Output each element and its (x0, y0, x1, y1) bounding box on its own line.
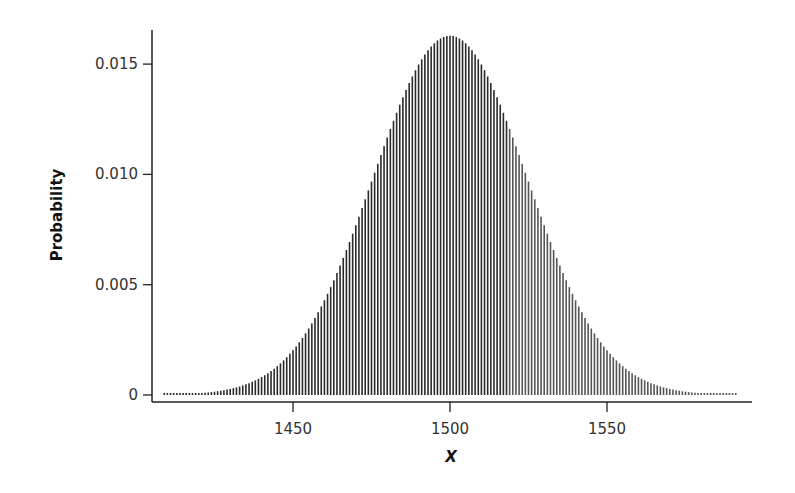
x-tick-label: 1450 (274, 420, 312, 438)
y-tick-label: 0 (128, 386, 138, 404)
x-axis-ticks: 145015001550 (274, 402, 626, 438)
y-tick-label: 0.010 (95, 165, 138, 183)
y-axis-title: Probability (48, 168, 66, 261)
bar-series (164, 36, 735, 395)
probability-bar-chart: 00.0050.0100.015 145015001550 X Probabil… (0, 0, 795, 493)
y-axis-ticks: 00.0050.0100.015 (95, 55, 152, 404)
y-tick-label: 0.015 (95, 55, 138, 73)
x-tick-label: 1550 (588, 420, 626, 438)
y-tick-label: 0.005 (95, 276, 138, 294)
x-tick-label: 1500 (431, 420, 469, 438)
x-axis-title: X (444, 448, 458, 466)
